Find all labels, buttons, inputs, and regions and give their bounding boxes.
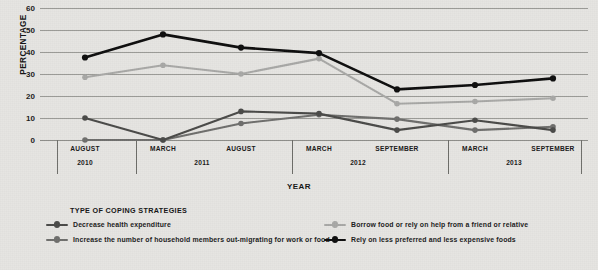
series-line-2 xyxy=(85,115,553,140)
legend-swatch-dot xyxy=(54,221,60,227)
x-tick-label-month-4: SEPTEMBER xyxy=(375,145,418,152)
data-point-s0-p6 xyxy=(550,75,556,81)
y-tick-label-10: 10 xyxy=(26,114,35,123)
y-tick-label-50: 50 xyxy=(26,26,35,35)
legend-swatch-dot xyxy=(332,221,338,227)
x-axis-year-label-2012: 2012 xyxy=(350,159,366,166)
data-point-s0-p2 xyxy=(238,45,244,51)
x-axis-group-separator-1 xyxy=(136,140,137,174)
legend-swatch-icon-2 xyxy=(324,220,346,229)
chart-legend: TYPE OF COPING STRATEGIES Decrease healt… xyxy=(46,206,586,264)
series-lines-svg xyxy=(40,8,588,140)
x-axis-title: YEAR xyxy=(0,182,598,191)
legend-item-2[interactable]: Borrow food or rely on help from a frien… xyxy=(324,220,528,229)
data-point-s1-p5 xyxy=(472,99,478,105)
data-point-s0-p5 xyxy=(472,82,478,88)
legend-swatch-icon-1 xyxy=(46,235,68,244)
legend-item-label-3: Rely on less preferred and less expensiv… xyxy=(351,236,516,243)
legend-item-label-0: Decrease health expenditure xyxy=(73,221,171,228)
plot-area: 0102030405060 xyxy=(40,8,588,140)
legend-item-3[interactable]: Rely on less preferred and less expensiv… xyxy=(324,235,516,244)
x-axis-year-label-2010: 2010 xyxy=(77,159,93,166)
x-tick-label-month-5: MARCH xyxy=(462,145,488,152)
x-axis-group-separator-0 xyxy=(57,140,58,174)
legend-item-label-1: Increase the number of household members… xyxy=(73,236,330,243)
legend-swatch-icon-3 xyxy=(324,235,346,244)
legend-item-label-2: Borrow food or rely on help from a frien… xyxy=(351,221,528,228)
data-point-s1-p4 xyxy=(394,101,400,107)
legend-swatch-icon-0 xyxy=(46,220,68,229)
x-tick-label-month-2: AUGUST xyxy=(226,145,255,152)
y-tick-label-60: 60 xyxy=(26,4,35,13)
x-axis-group-separator-3 xyxy=(448,140,449,174)
y-tick-label-40: 40 xyxy=(26,48,35,57)
data-point-s0-p3 xyxy=(316,50,322,56)
series-line-0 xyxy=(85,34,553,89)
data-point-s3-p3 xyxy=(316,111,322,117)
y-tick-label-0: 0 xyxy=(31,136,35,145)
data-point-s0-p4 xyxy=(394,86,400,92)
data-point-s1-p3 xyxy=(316,56,322,62)
data-point-s3-p0 xyxy=(82,115,88,121)
legend-swatch-dot xyxy=(332,236,338,242)
x-axis-group-separator-2 xyxy=(292,140,293,174)
data-point-s1-p2 xyxy=(238,71,244,77)
data-point-s0-p0 xyxy=(82,54,88,60)
legend-item-0[interactable]: Decrease health expenditure xyxy=(46,220,171,229)
x-axis-group-separator-end xyxy=(581,140,582,174)
legend-swatch-dot xyxy=(54,236,60,242)
data-point-s0-p1 xyxy=(160,31,166,37)
data-point-s2-p4 xyxy=(394,116,400,122)
data-point-s2-p2 xyxy=(238,121,244,127)
x-tick-label-month-0: AUGUST xyxy=(70,145,99,152)
legend-title: TYPE OF COPING STRATEGIES xyxy=(70,206,187,215)
legend-item-1[interactable]: Increase the number of household members… xyxy=(46,235,330,244)
series-line-1 xyxy=(85,59,553,104)
x-tick-label-month-6: SEPTEMBER xyxy=(531,145,574,152)
x-tick-label-month-1: MARCH xyxy=(150,145,176,152)
data-point-s1-p6 xyxy=(550,95,556,101)
data-point-s3-p2 xyxy=(238,109,244,115)
x-tick-label-month-3: MARCH xyxy=(306,145,332,152)
x-axis-year-label-2013: 2013 xyxy=(506,159,522,166)
data-point-s1-p1 xyxy=(160,62,166,68)
data-point-s3-p6 xyxy=(550,127,556,133)
data-point-s2-p5 xyxy=(472,127,478,133)
data-point-s3-p4 xyxy=(394,127,400,133)
y-tick-label-30: 30 xyxy=(26,70,35,79)
line-chart: PERCENTAGE 0102030405060 AUGUSTMARCHAUGU… xyxy=(0,0,598,270)
x-axis-year-label-2011: 2011 xyxy=(194,159,209,166)
data-point-s1-p0 xyxy=(82,75,88,81)
data-point-s3-p5 xyxy=(472,117,478,123)
x-axis: AUGUSTMARCHAUGUSTMARCHSEPTEMBERMARCHSEPT… xyxy=(40,140,588,178)
y-tick-label-20: 20 xyxy=(26,92,35,101)
